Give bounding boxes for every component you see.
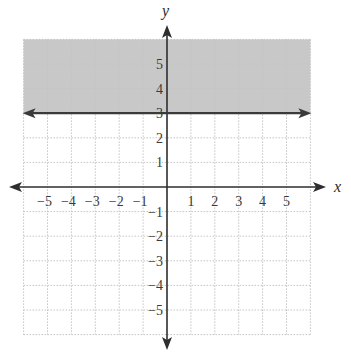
y-tick-label: −5 bbox=[148, 303, 163, 318]
y-axis-label: y bbox=[160, 2, 170, 20]
x-tick-label: 3 bbox=[235, 194, 242, 209]
y-tick-label: 1 bbox=[156, 155, 163, 170]
y-tick-label: 4 bbox=[156, 82, 163, 97]
y-tick-label: 3 bbox=[156, 106, 163, 121]
y-tick-label: 5 bbox=[156, 57, 163, 72]
y-tick-label: −3 bbox=[148, 254, 163, 269]
x-tick-label: −3 bbox=[85, 194, 100, 209]
x-tick-label: −4 bbox=[61, 194, 76, 209]
x-tick-label: 2 bbox=[211, 194, 218, 209]
x-tick-label: −5 bbox=[37, 194, 52, 209]
x-tick-label: 1 bbox=[187, 194, 194, 209]
x-tick-label: 4 bbox=[259, 194, 266, 209]
y-tick-label: −2 bbox=[148, 229, 163, 244]
y-tick-label: −1 bbox=[148, 205, 163, 220]
coordinate-plane: −5−4−3−2−11234554321−1−2−3−4−5 x y bbox=[0, 0, 351, 357]
y-tick-label: −4 bbox=[148, 278, 163, 293]
x-tick-label: −2 bbox=[109, 194, 124, 209]
x-tick-label: 5 bbox=[283, 194, 290, 209]
x-axis-label: x bbox=[333, 178, 341, 195]
x-tick-label: −1 bbox=[133, 194, 148, 209]
y-tick-label: 2 bbox=[156, 131, 163, 146]
